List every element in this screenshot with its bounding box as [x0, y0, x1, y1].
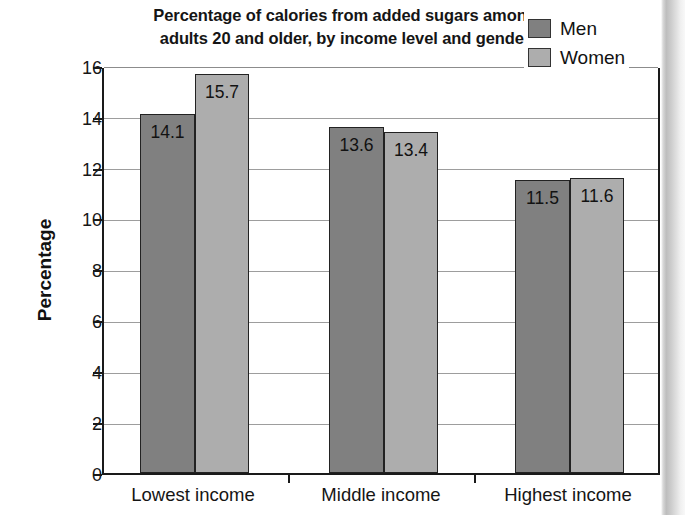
bar-value-label: 14.1 — [141, 122, 194, 143]
bar-lowest-income-men[interactable]: 14.1 — [140, 114, 195, 473]
y-tick-mark-16 — [93, 67, 102, 69]
bar-highest-income-women[interactable]: 11.6 — [570, 178, 624, 473]
scan-edge-artifact — [661, 0, 685, 515]
y-tick-mark-12 — [93, 169, 102, 171]
y-axis-title: Percentage — [34, 185, 56, 355]
legend-item-men[interactable]: Men — [528, 14, 625, 43]
bar-middle-income-women[interactable]: 13.4 — [384, 132, 438, 473]
women-swatch-icon — [528, 48, 551, 67]
y-tick-mark-10 — [93, 219, 102, 221]
legend-label-women: Women — [560, 47, 625, 69]
bar-value-label: 13.6 — [330, 135, 383, 156]
bar-value-label: 11.5 — [516, 188, 569, 209]
bar-highest-income-men[interactable]: 11.5 — [515, 180, 570, 473]
legend-label-men: Men — [560, 18, 597, 40]
x-tick-mark-2 — [474, 473, 476, 483]
bar-middle-income-men[interactable]: 13.6 — [329, 127, 384, 473]
y-tick-mark-0 — [93, 474, 102, 476]
chart-figure: Percentage of calories from added sugars… — [0, 0, 685, 515]
x-category-label-lowest-income: Lowest income — [131, 484, 254, 506]
bar-value-label: 13.4 — [385, 140, 437, 161]
legend-item-women[interactable]: Women — [528, 43, 625, 72]
x-category-label-middle-income: Middle income — [321, 484, 440, 506]
bar-value-label: 15.7 — [196, 82, 248, 103]
chart-legend: Men Women — [524, 12, 629, 76]
x-tick-mark-1 — [288, 473, 290, 483]
y-tick-mark-8 — [93, 270, 102, 272]
y-tick-mark-4 — [93, 372, 102, 374]
y-tick-mark-14 — [93, 118, 102, 120]
bar-value-label: 11.6 — [571, 186, 623, 207]
y-tick-mark-2 — [93, 423, 102, 425]
bar-lowest-income-women[interactable]: 15.7 — [195, 74, 249, 473]
x-category-label-highest-income: Highest income — [504, 484, 632, 506]
y-tick-mark-6 — [93, 321, 102, 323]
plot-area: 14.1 15.7 13.6 13.4 11.5 11.6 — [102, 68, 660, 475]
men-swatch-icon — [528, 19, 551, 38]
